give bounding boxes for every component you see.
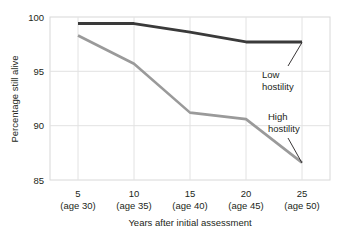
x-tick-label-15: 15 bbox=[185, 188, 196, 199]
x-axis-title: Years after initial assessment bbox=[128, 217, 252, 228]
survival-line-chart: 100 95 90 85 Percentage still alive 5 10… bbox=[0, 0, 351, 232]
x-tick-label-10: 10 bbox=[129, 188, 140, 199]
x-tick-label-25: 25 bbox=[297, 188, 308, 199]
x-tick-label-20: 20 bbox=[241, 188, 252, 199]
y-tick-label-90: 90 bbox=[33, 120, 44, 131]
y-axis-title: Percentage still alive bbox=[9, 55, 20, 142]
annotation-high-hostility-line1: High bbox=[268, 111, 288, 122]
x-sublabel-age-40: (age 40) bbox=[172, 200, 207, 211]
annotation-low-hostility-line2: hostility bbox=[262, 81, 294, 92]
x-sublabel-age-35: (age 35) bbox=[116, 200, 151, 211]
chart-container: 100 95 90 85 Percentage still alive 5 10… bbox=[0, 0, 351, 232]
y-tick-label-85: 85 bbox=[33, 175, 44, 186]
annotation-low-hostility-line1: Low bbox=[262, 69, 280, 80]
y-tick-label-95: 95 bbox=[33, 66, 44, 77]
x-tick-label-5: 5 bbox=[75, 188, 80, 199]
x-sublabel-age-45: (age 45) bbox=[228, 200, 263, 211]
y-tick-label-100: 100 bbox=[28, 12, 44, 23]
annotation-high-hostility-line2: hostility bbox=[268, 123, 300, 134]
x-sublabel-age-50: (age 50) bbox=[284, 200, 319, 211]
x-sublabel-age-30: (age 30) bbox=[60, 200, 95, 211]
